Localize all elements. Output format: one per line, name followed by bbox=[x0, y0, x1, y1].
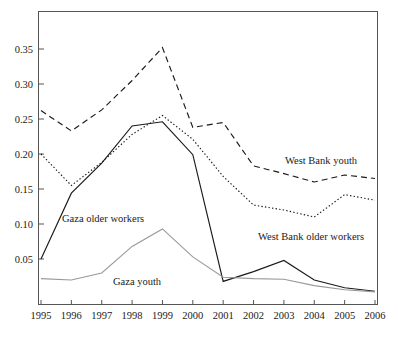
y-tick-label: 0.30 bbox=[15, 79, 33, 90]
series-line bbox=[41, 116, 375, 218]
x-tick-label: 2005 bbox=[334, 310, 355, 321]
x-tick-label: 2000 bbox=[182, 310, 203, 321]
data-series-group bbox=[41, 48, 375, 292]
x-tick-label: 2003 bbox=[273, 310, 294, 321]
series-annotation-label: Gaza older workers bbox=[62, 213, 144, 224]
x-tick-label: 2006 bbox=[365, 310, 386, 321]
y-tick-label: 0.25 bbox=[15, 114, 33, 125]
x-tick-label: 2002 bbox=[243, 310, 264, 321]
series-annotation-label: West Bank older workers bbox=[258, 231, 364, 242]
x-tick-label: 1998 bbox=[122, 310, 143, 321]
x-tick-label: 1996 bbox=[61, 310, 82, 321]
y-tick-label: 0.35 bbox=[15, 44, 33, 55]
series-annotation-label: West Bank youth bbox=[285, 155, 358, 166]
y-tick-label: 0.20 bbox=[15, 149, 33, 160]
chart-container: 0.050.100.150.200.250.300.35 19951996199… bbox=[0, 0, 398, 338]
series-line bbox=[41, 122, 375, 291]
y-tick-label: 0.10 bbox=[15, 219, 33, 230]
y-axis-tick-labels: 0.050.100.150.200.250.300.35 bbox=[15, 44, 33, 265]
x-axis-ticks bbox=[41, 300, 375, 304]
x-tick-label: 2001 bbox=[213, 310, 234, 321]
y-tick-label: 0.15 bbox=[15, 184, 33, 195]
y-tick-label: 0.05 bbox=[15, 254, 33, 265]
x-tick-label: 1995 bbox=[31, 310, 52, 321]
series-annotation-label: Gaza youth bbox=[113, 276, 162, 287]
series-annotations-group: West Bank youthWest Bank older workersGa… bbox=[62, 155, 364, 287]
line-chart: 0.050.100.150.200.250.300.35 19951996199… bbox=[0, 0, 398, 338]
x-tick-label: 2004 bbox=[304, 310, 326, 321]
x-axis-tick-labels: 1995199619971998199920002001200220032004… bbox=[31, 310, 386, 321]
x-tick-label: 1997 bbox=[91, 310, 112, 321]
x-tick-label: 1999 bbox=[152, 310, 173, 321]
